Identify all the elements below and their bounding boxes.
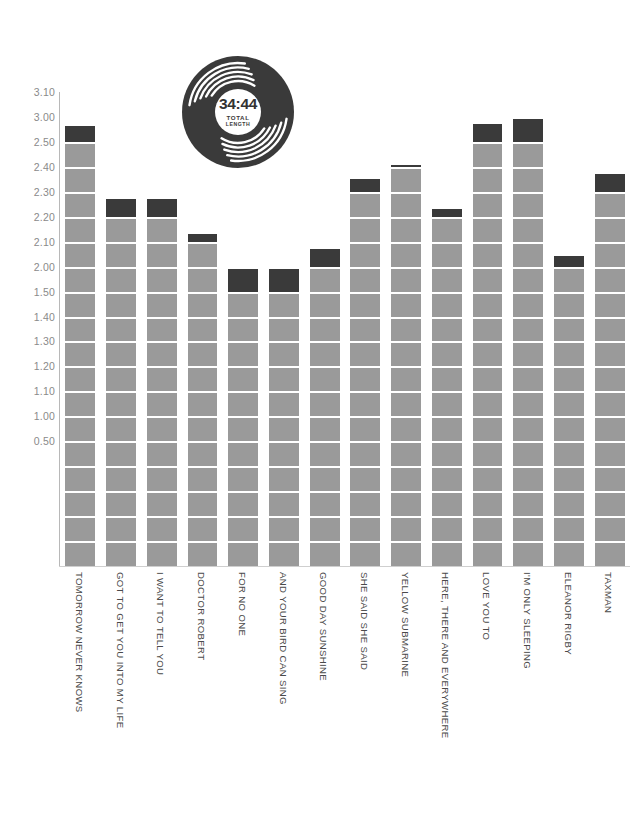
bar-segment — [188, 418, 218, 441]
bar-segment — [595, 418, 625, 441]
bar-top-segment — [310, 249, 340, 267]
bar-segment — [228, 294, 258, 317]
bar-segment — [595, 443, 625, 466]
bar-top-segment — [269, 269, 299, 292]
bar-top-segment — [350, 179, 380, 192]
bar-segment — [513, 518, 543, 541]
bar-segment — [65, 169, 95, 192]
bar-segment — [595, 493, 625, 516]
bar-top-segment — [65, 126, 95, 141]
y-axis-tick-label: 0.50 — [7, 436, 55, 447]
bar-segment — [65, 543, 95, 566]
bar-segment — [65, 219, 95, 242]
y-axis-tick-label: 1.40 — [7, 311, 55, 322]
bar[interactable] — [595, 172, 625, 566]
bar-segment — [65, 343, 95, 366]
bar-segment — [350, 493, 380, 516]
y-axis-tick-label: 3.10 — [7, 87, 55, 98]
bar-segment — [188, 343, 218, 366]
bar[interactable] — [65, 124, 95, 566]
bar-segment-stack — [350, 177, 380, 566]
bar-segment — [554, 368, 584, 391]
bar-segment — [595, 518, 625, 541]
bar-segment-stack — [310, 247, 340, 566]
bar-segment — [106, 418, 136, 441]
bar-segment — [432, 518, 462, 541]
bar-segment — [228, 443, 258, 466]
bar-segment — [106, 493, 136, 516]
bar-segment — [513, 368, 543, 391]
bar-segment — [188, 493, 218, 516]
bar-segment — [473, 368, 503, 391]
bar[interactable] — [147, 197, 177, 566]
bar-segment — [513, 343, 543, 366]
bar-segment — [554, 343, 584, 366]
bar[interactable] — [106, 197, 136, 566]
bar-segment — [228, 468, 258, 491]
bar-segment — [269, 418, 299, 441]
bar-segment-stack — [228, 267, 258, 566]
bar-segment — [65, 144, 95, 167]
bar[interactable] — [350, 177, 380, 566]
bar-segment — [432, 368, 462, 391]
bar[interactable] — [391, 164, 421, 566]
y-axis-tick-label: 1.50 — [7, 286, 55, 297]
bar-segment — [106, 269, 136, 292]
x-axis-category-label: YELLOW SUBMARINE — [400, 572, 410, 677]
plot-area — [60, 92, 630, 566]
bar-segment — [554, 518, 584, 541]
bar-segment — [595, 543, 625, 566]
bar[interactable] — [473, 122, 503, 566]
bar-segment — [391, 443, 421, 466]
bar-segment — [391, 393, 421, 416]
bar-segment — [228, 518, 258, 541]
bar-segment-stack — [188, 232, 218, 566]
bar-segment — [106, 319, 136, 342]
bar-segment — [310, 418, 340, 441]
bar-segment — [391, 368, 421, 391]
bar[interactable] — [188, 232, 218, 566]
bar-segment-stack — [595, 172, 625, 566]
bar-segment — [473, 518, 503, 541]
bar-segment — [350, 418, 380, 441]
bar-segment — [147, 493, 177, 516]
bar-segment — [269, 443, 299, 466]
x-axis-category-label: LOVE YOU TO — [481, 572, 491, 640]
bar-segment — [513, 244, 543, 267]
bar-segment — [350, 518, 380, 541]
bar[interactable] — [310, 247, 340, 566]
bar[interactable] — [554, 254, 584, 566]
bar-segment — [350, 294, 380, 317]
bar[interactable] — [269, 267, 299, 566]
bar-segment — [106, 368, 136, 391]
bar-segment — [350, 219, 380, 242]
bar-segment — [147, 343, 177, 366]
bar-segment — [65, 244, 95, 267]
x-axis-category-label: ELEANOR RIGBY — [563, 572, 573, 655]
bar-top-segment — [106, 199, 136, 217]
bar-segment — [432, 269, 462, 292]
bar-segment — [147, 219, 177, 242]
bar[interactable] — [228, 267, 258, 566]
bar-segment — [350, 343, 380, 366]
bar-segment — [106, 468, 136, 491]
vinyl-record-svg — [178, 52, 298, 172]
bar-segment — [310, 393, 340, 416]
bar-segment — [513, 543, 543, 566]
bar-segment — [147, 393, 177, 416]
bar-segment — [473, 219, 503, 242]
bar-segment — [269, 468, 299, 491]
bar-segment — [310, 493, 340, 516]
bar-segment — [310, 518, 340, 541]
bar-segment — [228, 543, 258, 566]
bar-segment — [65, 368, 95, 391]
bar[interactable] — [513, 117, 543, 566]
bar-segment — [513, 269, 543, 292]
bar[interactable] — [432, 207, 462, 566]
x-axis-category-label: FOR NO ONE — [237, 572, 247, 636]
y-axis-tick-label: 2.50 — [7, 137, 55, 148]
bar-segment-stack — [554, 254, 584, 566]
bar-segment — [65, 393, 95, 416]
bar-segment — [106, 294, 136, 317]
bar-segment — [391, 169, 421, 192]
